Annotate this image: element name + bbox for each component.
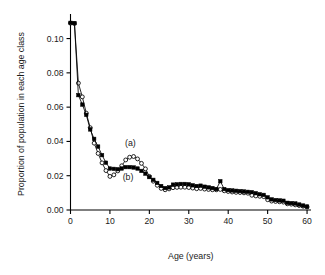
data-point <box>167 186 171 190</box>
data-point <box>218 187 222 191</box>
data-point <box>171 183 175 187</box>
data-point <box>108 167 112 171</box>
data-point <box>155 181 159 185</box>
data-point <box>100 153 104 157</box>
data-point <box>128 165 132 169</box>
data-point <box>258 192 262 196</box>
data-point <box>152 178 156 182</box>
data-point <box>293 202 297 206</box>
data-point <box>136 167 140 171</box>
data-point <box>203 185 207 189</box>
data-point <box>254 191 257 195</box>
data-point <box>297 203 301 207</box>
data-point <box>250 190 254 194</box>
data-point <box>73 21 77 25</box>
data-point <box>286 201 290 205</box>
x-tick-label: 0 <box>68 216 73 226</box>
series-line <box>71 23 308 207</box>
data-point <box>88 128 92 131</box>
series-label-b: (b) <box>123 172 134 182</box>
data-point <box>128 155 132 159</box>
data-point <box>69 21 73 25</box>
x-tick-label: 50 <box>263 216 273 226</box>
figure-container: 0.000.020.040.060.080.10 0102030405060 (… <box>0 0 325 275</box>
y-tick-label: 0.06 <box>47 102 64 112</box>
y-tick-label: 0.02 <box>47 171 64 181</box>
data-point <box>191 184 195 188</box>
data-point <box>278 199 282 203</box>
x-axis-title: Age (years) <box>168 251 214 261</box>
data-point <box>100 161 104 165</box>
x-tick-label: 30 <box>184 216 194 226</box>
data-point <box>77 93 81 97</box>
x-axis-ticks: 0102030405060 <box>68 210 312 226</box>
series-line <box>71 23 308 207</box>
data-point <box>179 182 183 186</box>
y-tick-label: 0.08 <box>47 68 64 78</box>
data-point <box>124 165 128 169</box>
series-b <box>69 21 309 208</box>
data-point <box>80 95 84 99</box>
x-tick-label: 10 <box>105 216 115 226</box>
y-tick-label: 0.10 <box>47 34 64 44</box>
data-point <box>104 161 108 165</box>
data-point <box>226 188 230 192</box>
data-point <box>238 189 242 193</box>
data-point <box>96 145 100 149</box>
data-point <box>144 172 148 176</box>
data-point <box>140 161 144 165</box>
data-point <box>266 196 270 200</box>
data-point <box>163 186 167 190</box>
data-point <box>76 81 80 85</box>
data-point <box>207 186 211 190</box>
data-point <box>282 199 286 203</box>
data-point <box>305 205 309 209</box>
data-point <box>136 157 140 161</box>
data-point <box>183 182 187 186</box>
data-point <box>230 189 234 193</box>
data-point <box>116 167 120 171</box>
x-tick-label: 60 <box>302 216 312 226</box>
data-point <box>270 198 274 202</box>
y-axis-title: Proportion of population in each age cla… <box>16 31 26 195</box>
data-point <box>148 175 152 179</box>
data-point <box>246 190 250 194</box>
data-point <box>104 169 108 173</box>
data-point <box>290 201 294 205</box>
data-point <box>219 179 223 183</box>
data-point <box>132 155 136 159</box>
x-tick-label: 20 <box>145 216 155 226</box>
series-label-a: (a) <box>125 138 136 148</box>
data-point <box>85 113 89 117</box>
data-point <box>211 186 215 190</box>
data-point <box>274 198 278 202</box>
data-point <box>92 137 96 141</box>
x-tick-label: 40 <box>223 216 233 226</box>
data-point <box>112 167 116 171</box>
data-point <box>112 173 116 177</box>
data-point <box>195 184 199 188</box>
data-point <box>215 187 219 191</box>
data-point <box>140 169 144 173</box>
y-axis-ticks: 0.000.020.040.060.080.10 <box>47 34 71 215</box>
data-point <box>124 158 128 162</box>
series-a <box>69 21 309 209</box>
y-tick-label: 0.00 <box>47 205 64 215</box>
data-point <box>187 183 191 187</box>
data-point <box>175 183 179 187</box>
data-point <box>262 193 266 197</box>
data-point <box>96 151 100 155</box>
data-point <box>132 166 136 170</box>
data-series-group <box>69 21 309 209</box>
data-point <box>242 190 246 194</box>
data-point <box>159 184 163 188</box>
data-point <box>199 184 203 188</box>
data-point <box>301 204 305 208</box>
data-point <box>120 167 124 171</box>
data-point <box>234 189 238 193</box>
data-point <box>108 174 112 178</box>
chart-plot: 0.000.020.040.060.080.10 0102030405060 (… <box>0 0 325 275</box>
data-point <box>143 167 147 171</box>
data-point <box>223 187 227 191</box>
y-tick-label: 0.04 <box>47 136 64 146</box>
